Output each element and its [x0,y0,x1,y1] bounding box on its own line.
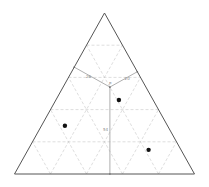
foot-marker [109,173,111,175]
data-points [63,98,151,152]
foot-marker [137,71,139,73]
data-point [146,148,150,152]
triangle-outline [15,13,195,174]
grid-line [33,142,51,174]
grid-line [159,142,177,174]
left-distance-label: 26 [86,74,92,79]
ternary-diagram: 26 20 54 P [0,0,209,187]
data-point [63,124,67,128]
grid-lines [33,45,177,174]
data-point [117,98,121,102]
grid-line [87,77,141,174]
interior-point [109,86,111,88]
distance-labels: 26 20 54 P [86,74,130,131]
interior-point-label: P [109,81,112,86]
bottom-distance-label: 54 [103,127,109,132]
foot-marker [73,66,75,68]
perpendicular-right [110,72,137,87]
right-distance-label: 20 [125,76,131,81]
grid-line [69,77,123,174]
